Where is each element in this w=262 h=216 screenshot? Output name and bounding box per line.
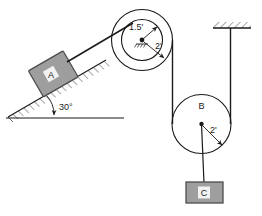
- pulley-b-label: B: [198, 101, 204, 111]
- outer-radius-label: 2': [155, 41, 162, 51]
- axle-hatch-4: [144, 44, 146, 48]
- cable-a-to-pulley: [67, 23, 133, 62]
- axle-hatch-2: [138, 44, 140, 48]
- mechanics-pulley-diagram: 30° A 1.5' 2': [0, 0, 262, 216]
- block-c-label: C: [201, 188, 208, 198]
- pulley-b-radius-label: 2': [210, 125, 217, 135]
- angle-label-30: 30°: [59, 102, 73, 112]
- axle-hatch-3: [141, 44, 143, 48]
- axle-hatch-1: [135, 44, 137, 48]
- block-c-group: C: [186, 182, 223, 203]
- block-a-label: A: [48, 70, 54, 80]
- ceiling-hatching: [213, 22, 251, 28]
- inner-radius-label: 1.5': [129, 22, 144, 32]
- diagram-canvas: 30° A 1.5' 2': [0, 0, 262, 216]
- top-pulley-group: 1.5' 2': [112, 10, 173, 71]
- block-a-group: A: [28, 51, 78, 97]
- ceiling-support-group: [213, 22, 251, 28]
- inner-radius-arrow: [143, 27, 157, 39]
